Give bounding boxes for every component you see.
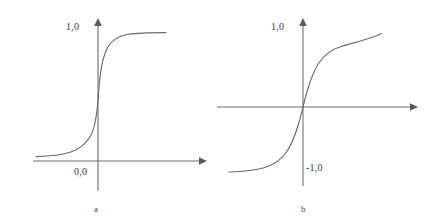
chart-panel-a: 1,0 0,0 a: [0, 0, 217, 224]
chart-b-label-y-min: -1,0: [306, 163, 323, 173]
chart-a-label-y-max: 1,0: [66, 22, 79, 32]
chart-b-x-axis-arrow-icon: [410, 103, 418, 111]
chart-panel-b: 1,0 -1,0 b: [217, 0, 434, 224]
chart-a-sigmoid-curve: [36, 33, 166, 157]
chart-b-tanh-curve: [229, 33, 382, 172]
chart-a-caption: a: [94, 205, 98, 214]
chart-b-y-axis-arrow-icon: [299, 18, 307, 26]
chart-a-label-origin: 0,0: [74, 167, 87, 177]
chart-a-y-axis-arrow-icon: [94, 18, 102, 26]
chart-b-plot: [217, 0, 434, 224]
figure-container: 1,0 0,0 a 1,0 -1,0 b: [0, 0, 434, 224]
chart-a-x-axis-arrow-icon: [199, 157, 207, 165]
chart-b-label-y-max: 1,0: [271, 22, 284, 32]
chart-b-caption: b: [301, 205, 306, 214]
chart-a-plot: [0, 0, 217, 224]
